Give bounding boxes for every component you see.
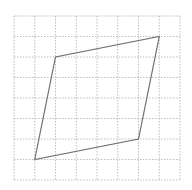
grid-diagram xyxy=(0,0,192,190)
dotted-grid xyxy=(14,16,180,180)
